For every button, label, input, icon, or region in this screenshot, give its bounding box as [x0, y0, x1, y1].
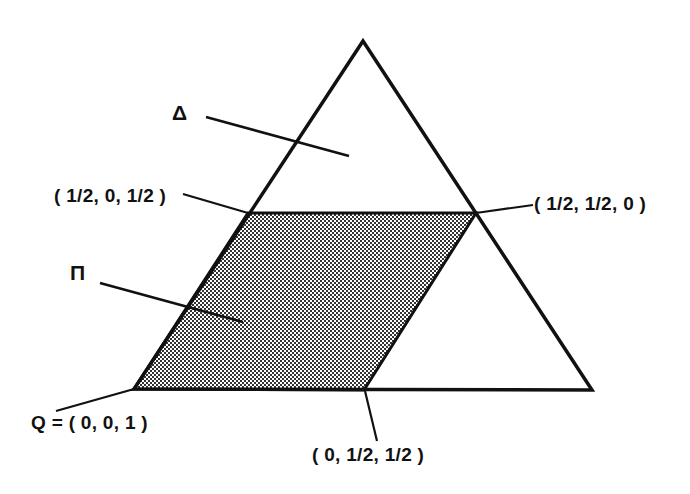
delta-leader-line	[206, 117, 349, 156]
half-0-half-leader-line	[183, 194, 248, 213]
label-vertex-half-half-0: ( 1/2, 1/2, 0 )	[534, 194, 646, 213]
simplex-figure: Δ Π ( 1/2, 0, 1/2 ) ( 1/2, 1/2, 0 ) Q = …	[0, 0, 690, 494]
half-half-0-leader-line	[476, 205, 533, 213]
q-origin-leader-line	[56, 389, 134, 411]
label-vertex-half-0-half: ( 1/2, 0, 1/2 )	[54, 186, 166, 205]
shaded-parallelogram-pi	[134, 213, 476, 390]
label-pi: Π	[70, 262, 85, 283]
label-delta: Δ	[172, 102, 187, 123]
label-vertex-q-origin: Q = ( 0, 0, 1 )	[31, 413, 148, 432]
0-half-half-leader-line	[365, 391, 377, 441]
label-vertex-0-half-half: ( 0, 1/2, 1/2 )	[312, 445, 424, 464]
